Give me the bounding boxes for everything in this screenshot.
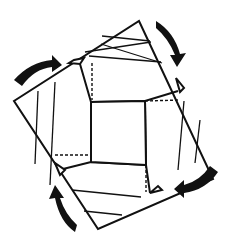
origami-diagram (0, 0, 234, 249)
center-square (91, 101, 146, 165)
top-right-arrow (156, 21, 186, 67)
